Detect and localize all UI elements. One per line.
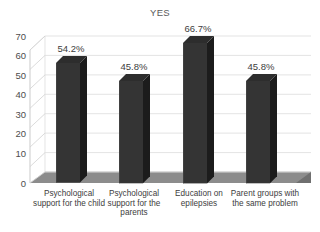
y-tick-60: 60 [2,50,26,61]
data-label-4: 45.8% [248,61,275,72]
bar-1 [56,63,80,183]
y-tick-70: 70 [2,31,26,42]
bar-3 [183,43,207,183]
bar-3-3d [183,36,214,184]
data-label-2: 45.8% [121,61,148,72]
category-label-4: Parent groups with the same problem [225,189,305,208]
bar-3-front-face [183,43,207,183]
bar-3-side-face [207,36,214,183]
bar-2-front-face [119,81,143,183]
bar-4-3d [246,74,277,184]
bar-1-front-face [56,63,80,183]
y-tick-50: 50 [2,69,26,80]
data-label-3: 66.7% [185,23,212,34]
bar-4 [246,81,270,183]
bar-chart: YES [0,0,320,232]
y-tick-20: 20 [2,128,26,139]
bar-2-side-face [143,74,150,183]
y-tick-30: 30 [2,108,26,119]
bar-1-side-face [80,56,87,183]
bar-2-3d [119,74,150,184]
bar-4-side-face [270,74,277,183]
bar-1-3d [56,56,87,183]
data-label-1: 54.2% [58,43,85,54]
left-wall [30,36,45,183]
bar-4-front-face [246,81,270,183]
y-tick-0: 0 [2,178,26,189]
y-tick-40: 40 [2,89,26,100]
category-label-2: Psychological support for the parents [95,189,173,218]
y-tick-10: 10 [2,147,26,158]
bar-2 [119,81,143,183]
